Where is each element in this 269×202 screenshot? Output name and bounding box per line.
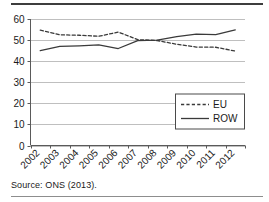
x-tick-label-2005: 2005 [77,147,101,171]
x-tick-label-group: 2002200320042005200620072008200920102011… [18,147,237,171]
x-tick-label-2006: 2006 [96,147,120,171]
source-note: Source: ONS (2013). [11,180,97,190]
figure-top-rule [11,3,263,5]
chart-svg: 0102030405060 20022003200420052006200720… [0,12,269,172]
y-tick-label-50: 50 [13,35,25,46]
x-tick-label-2011: 2011 [194,147,217,170]
y-tick-label-40: 40 [13,56,25,67]
y-tick-label-0: 0 [19,141,25,152]
y-tick-label-20: 20 [13,98,25,109]
x-tick-label-2004: 2004 [57,147,81,171]
figure-container: 0102030405060 20022003200420052006200720… [0,0,269,202]
x-tick-label-2007: 2007 [116,147,140,171]
legend-label-eu: EU [213,99,227,110]
x-tick-label-2009: 2009 [155,147,179,171]
y-tick-label-group: 0102030405060 [13,14,25,152]
y-tick-label-10: 10 [13,119,25,130]
figure-bottom-rule [11,196,263,197]
x-tick-label-2003: 2003 [38,147,62,171]
x-tick-label-2012: 2012 [213,147,237,171]
chart-legend: EUROW [176,94,245,129]
legend-label-row: ROW [213,113,238,124]
y-tick-label-60: 60 [13,14,25,25]
line-chart: 0102030405060 20022003200420052006200720… [0,12,269,172]
x-tick-label-2008: 2008 [135,147,159,171]
y-tick-label-30: 30 [13,77,25,88]
x-tick-label-2010: 2010 [174,147,198,171]
